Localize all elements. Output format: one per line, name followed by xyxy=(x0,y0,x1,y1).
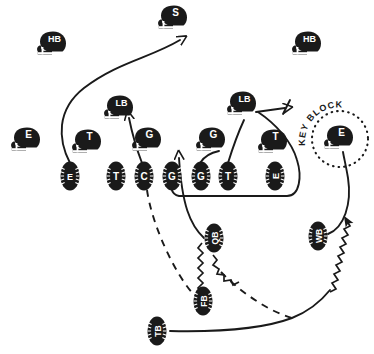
defender-t-left[interactable]: T xyxy=(72,130,101,153)
offense-fb[interactable]: FB xyxy=(193,286,212,315)
offense-label: G xyxy=(197,171,205,182)
offense-tb[interactable]: TB xyxy=(147,316,166,345)
defender-label: E xyxy=(25,129,32,140)
offense-label: E xyxy=(67,172,73,182)
route-tick-mark xyxy=(283,100,290,114)
play-diagram: KEY BLOCK S HB HB LB LB xyxy=(0,0,374,354)
route-pull-right-head xyxy=(256,108,285,112)
route-fb-dash xyxy=(221,272,292,318)
defender-label: G xyxy=(210,129,218,140)
field-canvas: KEY BLOCK S HB HB LB LB xyxy=(0,0,374,354)
offense-g-right[interactable]: G xyxy=(191,161,210,190)
offense-g-mid[interactable]: G xyxy=(162,161,181,190)
offense-label: QB xyxy=(210,232,220,245)
defender-label: G xyxy=(146,129,154,140)
defender-label: LB xyxy=(116,98,128,108)
defender-label: S xyxy=(172,7,179,18)
route-lb-hook xyxy=(228,120,244,163)
offense-label: E xyxy=(271,173,281,179)
defender-label: LB xyxy=(239,94,251,104)
offense-c[interactable]: C xyxy=(134,161,153,190)
defender-t-right[interactable]: T xyxy=(258,130,287,153)
offense-label: TB xyxy=(153,325,163,336)
defender-g-right[interactable]: G xyxy=(196,128,225,151)
defender-lb-right[interactable]: LB xyxy=(227,92,256,115)
defender-label: HB xyxy=(48,34,61,44)
defender-e-left[interactable]: E xyxy=(11,128,40,151)
route-c-dash xyxy=(147,190,195,296)
defender-label: T xyxy=(272,131,278,142)
route-g-hook xyxy=(200,151,219,163)
offense-label: G xyxy=(168,171,176,182)
defender-hb-right[interactable]: HB xyxy=(292,32,321,55)
offense-line-layer: E T C G G T E xyxy=(60,161,284,190)
offense-t-left[interactable]: T xyxy=(106,161,125,190)
defender-s[interactable]: S xyxy=(158,6,187,29)
defender-label: HB xyxy=(303,34,316,44)
offense-label: WB xyxy=(314,229,324,243)
offense-t-right[interactable]: T xyxy=(218,161,237,190)
defender-label: T xyxy=(86,131,92,142)
offense-label: C xyxy=(140,171,147,182)
offense-label: T xyxy=(225,171,231,182)
defender-label: E xyxy=(338,127,345,138)
route-wb-to-key xyxy=(328,152,349,234)
defender-hb-left[interactable]: HB xyxy=(37,32,66,55)
offense-e-right[interactable]: E xyxy=(265,161,284,190)
defender-lb-left[interactable]: LB xyxy=(104,96,133,119)
offense-e-left[interactable]: E xyxy=(60,161,79,190)
defender-g-left[interactable]: G xyxy=(132,128,161,151)
offense-qb[interactable]: QB xyxy=(204,223,223,252)
route-dashed-layer xyxy=(147,190,292,318)
offense-label: FB xyxy=(199,295,209,306)
offense-label: T xyxy=(113,171,119,182)
offense-wb[interactable]: WB xyxy=(308,221,327,250)
defender-e-key-block[interactable]: E xyxy=(324,126,353,149)
route-qb-squiggle xyxy=(213,255,239,285)
